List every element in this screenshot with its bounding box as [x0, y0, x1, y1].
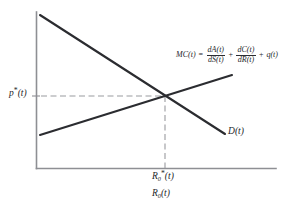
equilibrium-price-label: p*(t) — [9, 89, 27, 99]
marginal-cost-curve — [40, 75, 232, 135]
equation-lhs: MC(t) — [176, 51, 196, 59]
demand-curve — [40, 15, 225, 134]
fraction-one-numerator: dA(t) — [206, 46, 225, 55]
fraction-two-denominator: dR(t) — [236, 55, 255, 65]
x-axis-subscript: 0 — [158, 192, 161, 199]
demand-curve-label: D(t) — [228, 127, 244, 137]
price-argument: (t) — [18, 88, 27, 98]
demand-argument: (t) — [235, 126, 244, 136]
equilibrium-quantity-label: R0*(t) — [152, 172, 174, 182]
fraction-two-numerator: dC(t) — [236, 46, 256, 55]
equation-fraction-one: dA(t) dS(t) — [206, 46, 225, 65]
equation-third-term: q(t) — [266, 51, 278, 59]
x-axis-label: R0(t) — [152, 189, 170, 199]
x-axis-argument: (t) — [161, 188, 170, 198]
marginal-cost-equation: MC(t) = dA(t) dS(t) + dC(t) dR(t) + q(t) — [176, 46, 278, 65]
quantity-argument: (t) — [165, 171, 174, 181]
equation-plus-two: + — [258, 51, 264, 59]
fraction-one-denominator: dS(t) — [207, 55, 226, 65]
quantity-star: * — [161, 169, 165, 178]
equation-fraction-two: dC(t) dR(t) — [236, 46, 256, 65]
equation-plus-one: + — [228, 51, 234, 59]
demand-symbol: D — [228, 126, 235, 136]
price-star: * — [14, 86, 18, 95]
figure-container: p*(t) D(t) R0*(t) R0(t) MC(t) = dA(t) dS… — [0, 0, 308, 211]
x-axis-symbol: R — [152, 188, 158, 198]
equation-equals-sign: = — [198, 51, 204, 59]
quantity-symbol: R — [152, 171, 158, 181]
